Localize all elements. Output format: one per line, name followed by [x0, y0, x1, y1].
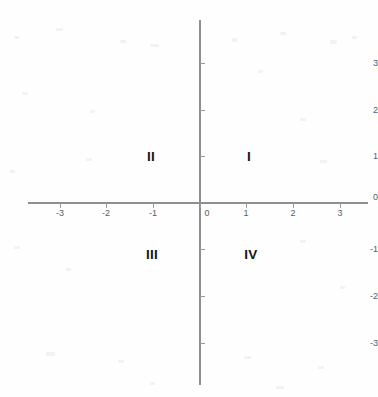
x-axis-tick	[200, 203, 201, 208]
coordinate-plane-figure: -3 -2 -1 0 1 2 3 3 2 1 0 -1 -2 -3 I II I…	[0, 0, 378, 397]
x-tick-label-3: 3	[337, 208, 342, 218]
x-tick-label-zero: 0	[204, 208, 209, 218]
y-tick-label-neg1: -1	[184, 244, 378, 254]
quadrant-label-four: IV	[244, 247, 257, 262]
x-tick-label-1: 1	[243, 208, 248, 218]
y-tick-label-neg3: -3	[184, 338, 378, 348]
x-tick-label-2: 2	[290, 208, 295, 218]
y-tick-label-3: 3	[184, 58, 378, 68]
quadrant-label-one: I	[247, 149, 251, 164]
x-axis-line	[28, 202, 368, 204]
x-tick-label-neg3: -3	[56, 208, 64, 218]
x-tick-label-neg2: -2	[102, 208, 110, 218]
quadrant-label-three: III	[146, 247, 158, 262]
y-tick-label-zero: 0	[184, 192, 378, 202]
y-tick-label-neg2: -2	[184, 291, 378, 301]
x-tick-label-neg1: -1	[149, 208, 157, 218]
quadrant-label-two: II	[147, 149, 155, 164]
y-tick-label-1: 1	[184, 151, 378, 161]
y-tick-label-2: 2	[184, 105, 378, 115]
